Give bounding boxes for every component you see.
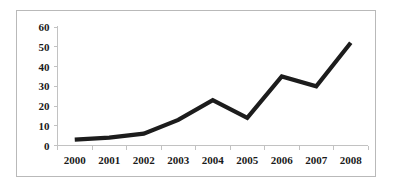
y-tick-label: 60	[39, 21, 51, 33]
y-tick-marks	[54, 27, 58, 146]
x-tick-label: 2003	[167, 154, 190, 166]
y-tick-label: 10	[39, 120, 51, 132]
data-series-group	[75, 43, 351, 140]
data-series-line	[75, 43, 351, 140]
y-tick-label: 50	[39, 41, 51, 53]
y-tick-label: 40	[39, 61, 51, 73]
y-tick-label: 0	[44, 140, 50, 152]
chart-container: 0102030405060 20002001200220032004200520…	[0, 0, 393, 187]
x-tick-label: 2000	[64, 154, 87, 166]
x-tick-label: 2004	[202, 154, 225, 166]
y-tick-labels: 0102030405060	[39, 21, 51, 152]
x-tick-label: 2007	[305, 154, 328, 166]
y-tick-label: 30	[39, 80, 51, 92]
x-tick-label: 2002	[133, 154, 156, 166]
x-tick-marks	[58, 146, 369, 150]
line-chart-plot: 0102030405060 20002001200220032004200520…	[0, 0, 393, 187]
x-tick-labels: 200020012002200320042005200620072008	[64, 154, 363, 166]
y-tick-label: 20	[39, 100, 51, 112]
x-tick-label: 2006	[271, 154, 294, 166]
x-tick-label: 2008	[340, 154, 363, 166]
x-tick-label: 2001	[98, 154, 120, 166]
x-tick-label: 2005	[236, 154, 259, 166]
